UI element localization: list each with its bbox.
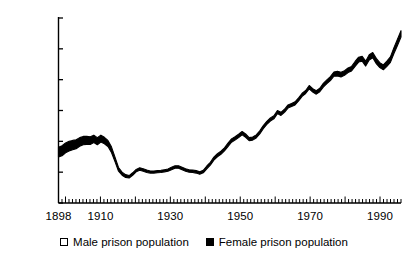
prison-population-chart: 010,00020,00030,00040,00050,00060,000 18… bbox=[0, 0, 408, 265]
female-swatch-icon bbox=[206, 238, 214, 246]
axes bbox=[59, 17, 402, 203]
legend-item-female: Female prison population bbox=[206, 236, 348, 248]
legend-item-male: Male prison population bbox=[60, 236, 189, 248]
plot-area bbox=[0, 0, 408, 265]
male-swatch-icon bbox=[60, 238, 68, 246]
legend-label-male: Male prison population bbox=[73, 236, 189, 248]
legend-label-female: Female prison population bbox=[219, 236, 348, 248]
chart-legend: Male prison population Female prison pop… bbox=[0, 236, 408, 248]
series-band bbox=[59, 31, 402, 178]
